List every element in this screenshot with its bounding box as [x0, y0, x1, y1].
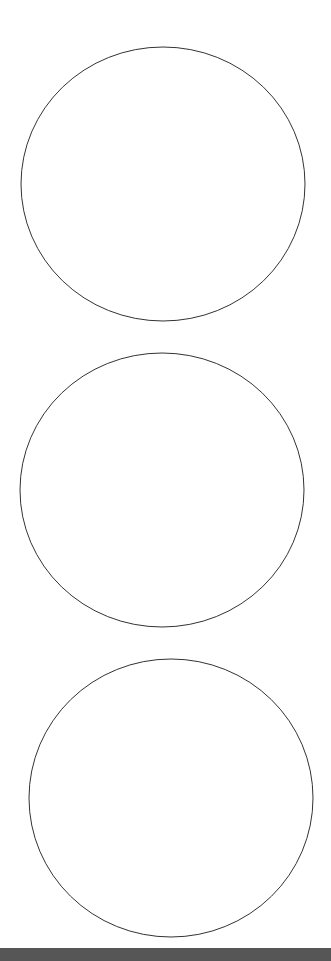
circle-1 [21, 47, 305, 321]
circle-3 [29, 659, 313, 937]
circles-drawing [0, 0, 331, 961]
canvas [0, 0, 331, 961]
circle-2 [20, 353, 304, 627]
bottom-bar [0, 948, 331, 961]
